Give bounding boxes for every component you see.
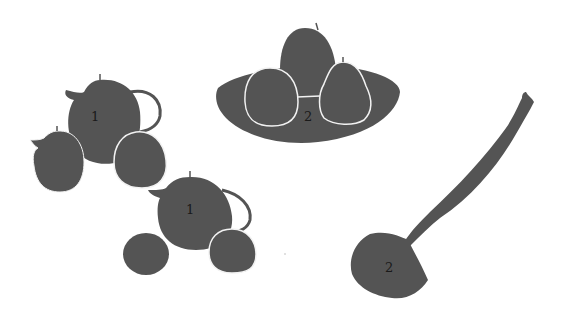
fruit-left-icon [30,131,84,192]
silhouette-scene: 1 2 1 2 [0,0,571,321]
stray-dot [284,253,286,255]
group-label: 1 [91,109,99,124]
group-label: 2 [304,109,312,124]
ladle-group [351,92,534,298]
fruit-right-icon [114,132,166,188]
fruit-bowl-left-icon [245,68,298,126]
fruit-left-icon [123,233,169,275]
pear-back-stem-icon [316,23,318,30]
group-label: 2 [385,260,393,275]
fruit-right-icon [209,229,256,273]
teapot-group-top-left [30,74,166,192]
fruit-bowl-group [216,23,400,143]
ladle-handle-icon [404,92,534,246]
fruit-connector-icon [297,96,320,97]
group-label: 1 [186,202,194,217]
